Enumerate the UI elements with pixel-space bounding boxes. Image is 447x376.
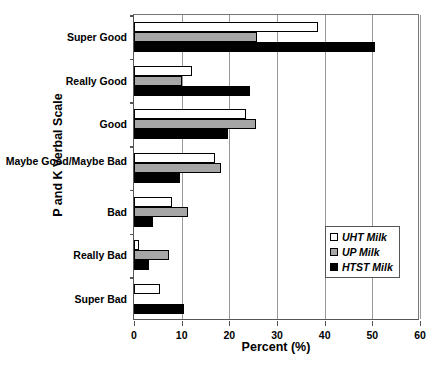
bar-uht: [134, 109, 246, 119]
x-axis-tick: [182, 321, 183, 326]
x-axis-tick: [372, 321, 373, 326]
legend: UHT Milk UP Milk HTST Milk: [325, 226, 400, 278]
legend-item-label: UHT Milk: [342, 231, 387, 243]
bar-slot: [134, 304, 418, 314]
bar-uht: [134, 197, 172, 207]
category-row: Maybe Good/Maybe Bad: [134, 146, 418, 190]
category-row: Super Good: [134, 15, 418, 59]
bar-htst: [134, 304, 184, 314]
bar-uht: [134, 66, 192, 76]
bar-group: [134, 197, 418, 227]
bar-htst: [134, 129, 228, 139]
bar-up: [134, 207, 188, 217]
x-axis-title: Percent (%): [133, 340, 419, 354]
x-axis-tick: [420, 321, 421, 326]
y-axis-tick: [130, 102, 134, 104]
category-row: Good: [134, 102, 418, 146]
x-axis-tick: [134, 321, 135, 326]
bar-slot: [134, 207, 418, 217]
bar-htst: [134, 260, 149, 270]
y-axis-tick: [130, 146, 134, 148]
legend-item: HTST Milk: [330, 261, 393, 273]
legend-item: UP Milk: [330, 246, 393, 258]
bar-htst: [134, 42, 375, 52]
bar-htst: [134, 217, 153, 227]
bar-slot: [134, 284, 418, 294]
bar-slot: [134, 153, 418, 163]
gray-square-icon: [330, 248, 338, 256]
bar-up: [134, 250, 169, 260]
x-axis-tick: [277, 321, 278, 326]
bar-slot: [134, 163, 418, 173]
legend-item: UHT Milk: [330, 231, 393, 243]
y-axis-tick: [130, 277, 134, 279]
y-axis-tick: [130, 59, 134, 61]
y-axis-category-label: Maybe Good/Maybe Bad: [0, 155, 127, 168]
bar-group: [134, 284, 418, 314]
legend-item-label: UP Milk: [342, 246, 380, 258]
bar-slot: [134, 32, 418, 42]
bar-group: [134, 109, 418, 139]
bar-slot: [134, 173, 418, 183]
x-axis-tick: [229, 321, 230, 326]
y-axis-category-label: Super Good: [0, 31, 127, 44]
bar-slot: [134, 119, 418, 129]
bar-uht: [134, 153, 215, 163]
bar-up: [134, 119, 256, 129]
bar-up: [134, 76, 182, 86]
bar-slot: [134, 42, 418, 52]
bar-up: [134, 32, 257, 42]
legend-item-label: HTST Milk: [342, 261, 393, 273]
bar-slot: [134, 294, 418, 304]
y-axis-tick: [130, 234, 134, 236]
y-axis-category-label: Bad: [0, 206, 127, 219]
bar-up: [134, 163, 221, 173]
bar-slot: [134, 22, 418, 32]
bar-uht: [134, 284, 160, 294]
bar-slot: [134, 66, 418, 76]
y-axis-category-label: Really Bad: [0, 249, 127, 262]
bar-uht: [134, 240, 139, 250]
black-square-icon: [330, 263, 338, 271]
y-axis-category-label: Really Good: [0, 75, 127, 88]
y-axis-tick: [130, 190, 134, 192]
x-gridline: [420, 15, 421, 319]
category-row: Super Bad: [134, 277, 418, 321]
bar-slot: [134, 109, 418, 119]
bar-group: [134, 153, 418, 183]
bar-slot: [134, 86, 418, 96]
white-square-icon: [330, 233, 338, 241]
bar-group: [134, 66, 418, 96]
bar-slot: [134, 76, 418, 86]
x-axis-tick: [325, 321, 326, 326]
bar-slot: [134, 197, 418, 207]
bar-slot: [134, 129, 418, 139]
y-axis-category-label: Super Bad: [0, 293, 127, 306]
bar-group: [134, 22, 418, 52]
bar-htst: [134, 86, 250, 96]
bar-chart: P and K Verbal Scale 0102030405060Super …: [0, 0, 447, 376]
y-axis-category-label: Good: [0, 118, 127, 131]
category-row: Really Good: [134, 59, 418, 103]
bar-htst: [134, 173, 180, 183]
bar-uht: [134, 22, 318, 32]
y-axis-tick: [130, 15, 134, 17]
